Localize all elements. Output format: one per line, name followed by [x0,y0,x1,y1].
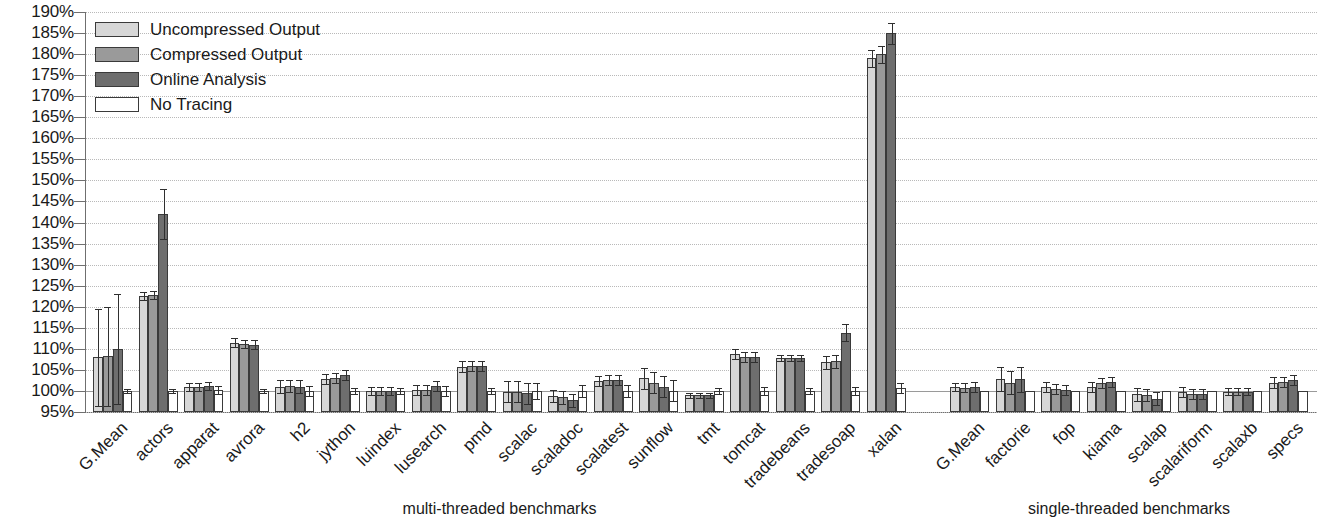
error-bar [755,352,756,362]
y-tick-label: 190% [2,3,74,20]
error-bar-cap [423,395,430,396]
error-bar [892,23,893,44]
error-bar-cap [387,387,394,388]
bar-group [500,12,546,412]
error-bar-cap [459,372,466,373]
bar [1116,391,1126,412]
legend: Uncompressed OutputCompressed OutputOnli… [95,17,345,117]
y-tick-label: 165% [2,108,74,125]
bar [1207,391,1217,412]
y-tick-mark [74,138,85,139]
y-tick-label: 95% [2,403,74,420]
x-tick-label: scalaxb [1208,419,1261,472]
bar-group [864,12,910,412]
x-tick-label: kiama [1080,419,1125,464]
bar [886,33,896,412]
error-bar [218,386,219,394]
error-bar-cap [897,393,904,394]
bar-group [727,12,773,412]
error-bar [719,388,720,395]
y-tick-mark [74,349,85,350]
legend-swatch [95,97,139,112]
y-tick-mark [74,12,85,13]
error-bar-cap [579,385,586,386]
error-bar-cap [952,391,959,392]
error-bar-cap [660,376,667,377]
legend-item: Uncompressed Output [95,17,345,42]
error-bar-cap [605,385,612,386]
error-bar [1284,377,1285,387]
error-bar [508,381,509,402]
y-tick-label: 145% [2,192,74,209]
error-bar-cap [1088,382,1095,383]
error-bar-cap [641,389,648,390]
error-bar-cap [140,300,147,301]
error-bar-cap [787,361,794,362]
error-bar-cap [241,340,248,341]
legend-label: Uncompressed Output [150,21,320,39]
error-bar-cap [1234,388,1241,389]
bar-group [1084,12,1130,412]
error-bar-cap [1179,397,1186,398]
error-bar-cap [1088,392,1095,393]
error-bar-cap [423,385,430,386]
error-bar [164,189,165,240]
error-bar [1112,377,1113,387]
error-bar-cap [277,393,284,394]
error-bar-cap [296,393,303,394]
error-bar-cap [524,404,531,405]
error-bar-cap [1108,377,1115,378]
error-bar-cap [260,393,267,394]
error-bar-cap [533,399,540,400]
bar [785,358,795,412]
error-bar [810,388,811,395]
bar [158,214,168,412]
error-bar-cap [1134,401,1141,402]
error-bar-cap [241,348,248,349]
error-bar-cap [897,383,904,384]
error-bar-cap [741,362,748,363]
error-bar [391,387,392,395]
y-tick-label: 100% [2,382,74,399]
error-bar-cap [1280,377,1287,378]
error-bar-cap [95,309,102,310]
error-bar-cap [878,63,885,64]
bar [139,296,149,412]
error-bar-cap [150,299,157,300]
legend-swatch [95,22,139,37]
y-tick-mark [74,370,85,371]
x-tick-label: G.Mean [933,419,988,474]
bar [867,58,877,412]
y-tick-label: 120% [2,298,74,315]
error-bar [791,355,792,362]
bar [1025,391,1035,412]
error-bar-cap [559,404,566,405]
error-bar-cap [215,394,222,395]
error-bar [609,375,610,385]
error-bar-cap [124,389,131,390]
error-bar [826,356,827,369]
error-bar-cap [478,361,485,362]
error-bar-cap [670,401,677,402]
error-bar-cap [442,396,449,397]
error-bar-cap [1270,377,1277,378]
error-bar-cap [706,398,713,399]
error-bar-cap [971,392,978,393]
error-bar-cap [797,361,804,362]
bar-group [636,12,682,412]
error-bar-cap [260,389,267,390]
error-bar-cap [852,395,859,396]
error-bar-cap [195,391,202,392]
error-bar-cap [868,67,875,68]
bar-group [1266,12,1312,412]
legend-swatch [95,72,139,87]
error-bar-cap [732,349,739,350]
bar [980,391,990,412]
error-bar-cap [842,324,849,325]
error-bar [326,374,327,384]
error-bar-cap [715,388,722,389]
error-bar-cap [686,398,693,399]
bar [821,362,831,412]
error-bar-cap [231,347,238,348]
error-bar [781,355,782,362]
